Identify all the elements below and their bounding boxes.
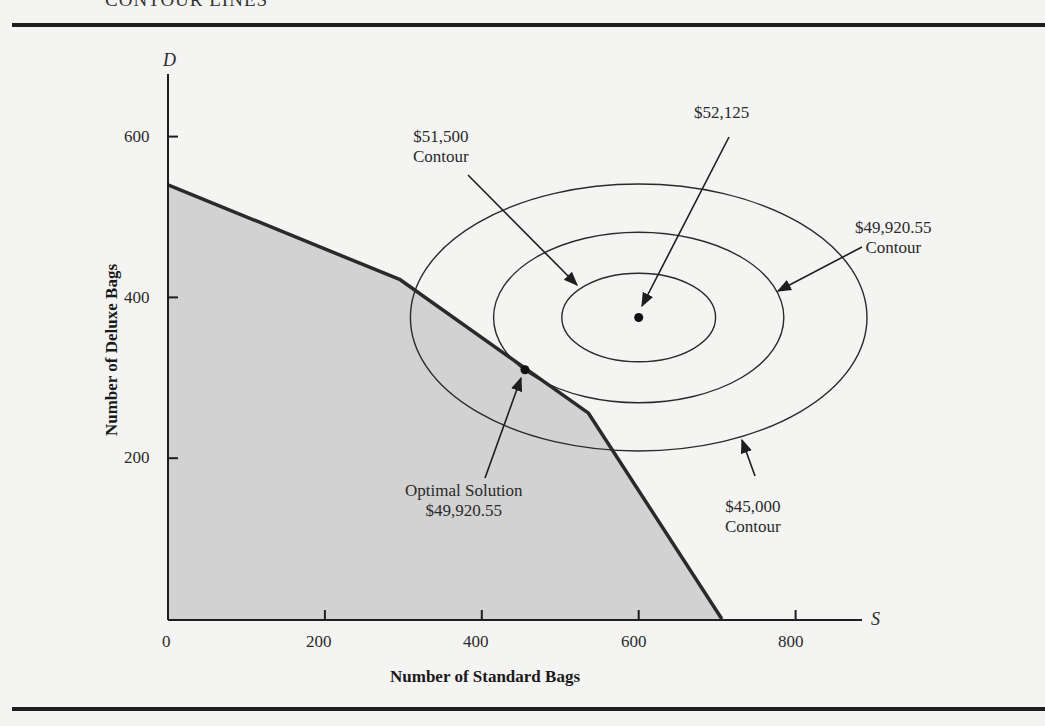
feasible-region [168, 185, 722, 619]
optimal-solution-point [520, 365, 529, 374]
arrow-45000 [742, 440, 755, 476]
x-axis-variable: S [871, 609, 880, 630]
label-line: $49,920.55 [405, 501, 523, 521]
label-line: Contour [725, 517, 781, 537]
label-51500-contour: $51,500 Contour [413, 127, 469, 167]
label-line: Contour [855, 238, 932, 258]
label-optimal-solution: Optimal Solution $49,920.55 [405, 481, 523, 521]
label-line: Optimal Solution [405, 481, 523, 501]
label-line: $52,125 [694, 103, 749, 123]
label-49920-contour: $49,920.55 Contour [855, 218, 932, 258]
y-axis-variable: D [163, 50, 176, 71]
arrow-49920-contour [778, 247, 862, 291]
arrow-52125 [642, 137, 729, 306]
y-tick-600: 600 [124, 127, 150, 147]
x-tick-600: 600 [621, 632, 647, 652]
y-tick-200: 200 [124, 448, 150, 468]
chart-canvas [0, 0, 1045, 726]
unconstrained-optimum-point [634, 313, 643, 322]
label-line: $51,500 [413, 127, 469, 147]
x-tick-400: 400 [463, 632, 489, 652]
y-tick-400: 400 [124, 288, 150, 308]
x-tick-0: 0 [162, 632, 171, 652]
label-52125: $52,125 [694, 103, 749, 123]
x-tick-800: 800 [778, 632, 804, 652]
label-line: $49,920.55 [855, 218, 932, 238]
x-axis-title: Number of Standard Bags [390, 667, 580, 687]
label-line: $45,000 [725, 497, 781, 517]
label-line: Contour [413, 147, 469, 167]
x-tick-200: 200 [306, 632, 332, 652]
y-axis-title: Number of Deluxe Bags [102, 250, 122, 450]
label-45000-contour: $45,000 Contour [725, 497, 781, 537]
